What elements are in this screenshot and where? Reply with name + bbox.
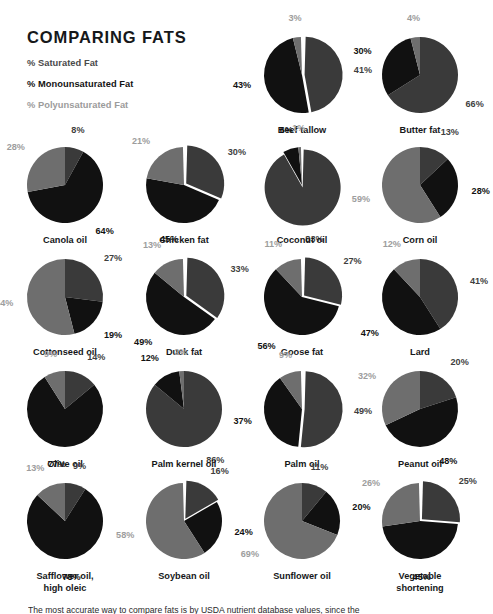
pie-caption-line: high oleic — [36, 583, 93, 595]
footnote: The most accurate way to compare fats is… — [28, 604, 468, 614]
pie-label-monounsaturated: 30% — [353, 47, 371, 56]
pie-svg — [238, 11, 366, 139]
pie-caption: Safflower oil,high oleic — [36, 571, 93, 594]
pie-label-monounsaturated: 47% — [361, 329, 379, 338]
pie-caption-line: Vegetable — [396, 571, 443, 583]
pie-svg — [238, 457, 366, 585]
pie-svg — [1, 345, 129, 473]
pie-svg — [356, 11, 484, 139]
pie-label-monounsaturated: 37% — [234, 418, 252, 427]
pie-label-polyunsaturated: 9% — [279, 351, 292, 360]
pie-label-monounsaturated: 28% — [472, 187, 490, 196]
pie-label-polyunsaturated: 3% — [288, 14, 301, 23]
pie-slice-saturated — [301, 371, 343, 447]
pie-svg — [238, 121, 366, 249]
pie-caption-line: shortening — [396, 583, 443, 595]
pie-label-polyunsaturated: 4% — [407, 14, 420, 23]
pie-label-polyunsaturated: 2% — [174, 348, 187, 357]
pie-label-saturated: 16% — [211, 467, 229, 476]
pie-chart-safflower-oil-high-oleic: 9%78%13%Safflower oil,high oleic — [1, 457, 129, 611]
pie-svg — [1, 457, 129, 585]
pie-label-polyunsaturated: 32% — [358, 372, 376, 381]
pie-chart-sunflower-oil: 11%20%69%Sunflower oil — [238, 457, 366, 611]
pie-label-polyunsaturated: 21% — [132, 136, 150, 145]
pie-label-polyunsaturated: 28% — [7, 143, 25, 152]
pie-slice-saturated — [65, 259, 103, 302]
pie-label-saturated: 13% — [441, 128, 459, 137]
pie-caption: Vegetableshortening — [396, 571, 443, 594]
pie-slice-saturated — [304, 257, 342, 304]
pie-svg — [356, 233, 484, 361]
pie-label-saturated: 11% — [311, 463, 329, 472]
pie-svg — [356, 121, 484, 249]
pie-label-monounsaturated: 6% — [280, 126, 293, 135]
pie-slice-monounsaturated — [264, 38, 309, 113]
comparing-fats-infographic: COMPARING FATS % Saturated Fat % Monouns… — [0, 0, 493, 614]
pie-label-polyunsaturated: 26% — [362, 478, 380, 487]
pie-label-polyunsaturated: 12% — [383, 240, 401, 249]
pie-label-polyunsaturated: 54% — [0, 299, 13, 308]
pie-label-saturated: 14% — [87, 353, 105, 362]
pie-slice-polyunsaturated — [382, 483, 420, 526]
pie-caption: Sunflower oil — [273, 571, 331, 583]
pie-slice-polyunsaturated — [27, 147, 65, 192]
pie-label-polyunsaturated: 13% — [143, 241, 161, 250]
pie-label-polyunsaturated: 59% — [352, 195, 370, 204]
pie-label-saturated: 25% — [459, 477, 477, 486]
pie-chart-soybean-oil: 16%24%58%Soybean oil — [120, 457, 248, 611]
pie-slice-monounsaturated — [382, 521, 457, 559]
pie-label-monounsaturated: 43% — [233, 81, 251, 90]
pie-label-saturated: 41% — [470, 278, 488, 287]
pie-label-polyunsaturated: 13% — [26, 464, 44, 473]
pie-chart-vegetable-shortening: 25%45%26%Vegetableshortening — [356, 457, 484, 611]
pie-label-saturated: 66% — [466, 100, 484, 109]
pie-label-saturated: 20% — [451, 358, 469, 367]
pie-label-monounsaturated: 12% — [141, 354, 159, 363]
pie-caption: Soybean oil — [158, 571, 210, 583]
pie-slice-saturated — [422, 481, 460, 522]
pie-svg — [238, 345, 366, 473]
pie-label-saturated: 8% — [71, 126, 84, 135]
pie-label-polyunsaturated: 69% — [241, 550, 259, 559]
pie-label-polyunsaturated: 58% — [116, 532, 134, 541]
pie-label-saturated: 9% — [73, 462, 86, 471]
pie-svg — [120, 345, 248, 473]
pie-slice-saturated — [305, 37, 343, 112]
pie-caption-line: Safflower oil, — [36, 571, 93, 583]
pie-chart-grid: 41%43%3%Beef tallow66%30%4%Butter fat8%6… — [0, 0, 493, 614]
pie-label-polyunsaturated: 11% — [264, 240, 282, 249]
pie-svg — [120, 457, 248, 585]
pie-label-polyunsaturated: 1% — [292, 124, 305, 133]
pie-slice-saturated — [265, 150, 341, 226]
pie-label-polyunsaturated: 9% — [44, 350, 57, 359]
